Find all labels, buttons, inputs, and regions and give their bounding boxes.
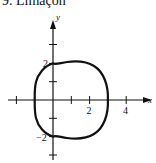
y-tick-label-neg2: −2 bbox=[36, 132, 47, 143]
y-tick-label-2: 2 bbox=[43, 58, 48, 69]
x-axis-label: x bbox=[147, 95, 152, 105]
x-tick-label-2: 2 bbox=[87, 105, 92, 116]
x-tick-label-4: 4 bbox=[123, 105, 128, 116]
limacon-plot: x y 2 4 2 −2 bbox=[0, 0, 156, 163]
y-axis-label: y bbox=[55, 12, 60, 22]
